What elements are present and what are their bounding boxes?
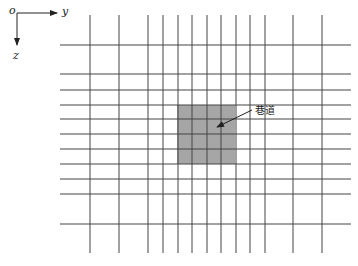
grid-diagram [0, 0, 358, 266]
tunnel-label: 巷道 [255, 106, 275, 116]
z-axis-label: z [13, 50, 19, 61]
origin-label: o [9, 5, 16, 16]
grid-lines [60, 15, 351, 253]
y-axis-label: y [62, 6, 68, 17]
